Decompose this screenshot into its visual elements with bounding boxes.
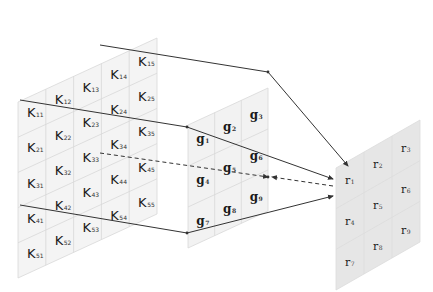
kernel-grid-panel: g1g2g3g4g5g6g7g8g9 xyxy=(188,88,268,248)
output-grid-panel: r1r2r3r4r5r6r7r8r9 xyxy=(336,120,420,290)
junction-dot xyxy=(186,126,189,129)
connector-dashed-right xyxy=(272,177,333,186)
junction-dot xyxy=(267,71,270,74)
convolution-diagram: K11K12K13K14K15K21K22K23K24K25K31K32K33K… xyxy=(0,0,433,292)
junction-dot xyxy=(186,232,189,235)
diagram-canvas: K11K12K13K14K15K21K22K23K24K25K31K32K33K… xyxy=(0,0,433,292)
junction-dot xyxy=(267,176,270,179)
